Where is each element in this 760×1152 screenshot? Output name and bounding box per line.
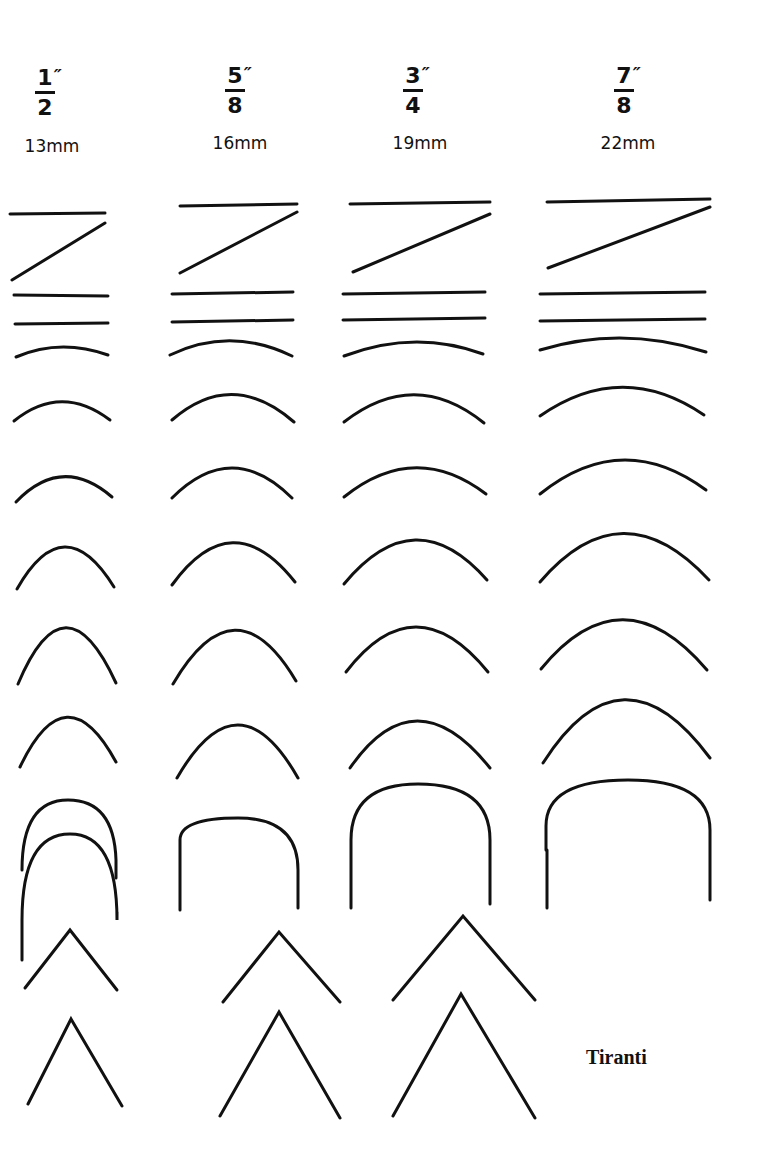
gouge-profile xyxy=(344,395,484,423)
inch-denominator: 8 xyxy=(594,94,654,118)
gouge-profile xyxy=(543,700,710,763)
inch-fraction: 1″ 2 xyxy=(15,66,75,120)
gouge-profile xyxy=(344,342,483,356)
inch-mark: ″ xyxy=(244,62,252,86)
gouge-profile xyxy=(16,477,112,502)
gouge-profile xyxy=(344,540,487,584)
gouge-profile xyxy=(177,725,298,778)
gouge-profile xyxy=(25,930,117,990)
gouge-profile xyxy=(353,214,490,272)
gouge-profile xyxy=(172,468,292,498)
inch-denominator: 4 xyxy=(383,94,443,118)
gouge-profile xyxy=(15,323,108,324)
fraction-bar xyxy=(614,89,634,92)
gouge-profile xyxy=(180,818,298,910)
gouge-profile xyxy=(172,543,295,585)
gouge-profile-diagram xyxy=(0,0,760,1152)
profiles-layer xyxy=(10,199,710,1118)
gouge-profile xyxy=(180,204,297,206)
gouge-profile xyxy=(12,223,105,280)
gouge-profile xyxy=(346,627,488,672)
gouge-profile xyxy=(180,212,297,273)
gouge-profile xyxy=(393,994,535,1118)
profile-column-col_13mm xyxy=(10,213,122,1106)
gouge-profile xyxy=(172,292,293,294)
fraction-bar xyxy=(403,89,423,92)
gouge-profile xyxy=(223,932,340,1002)
gouge-profile xyxy=(16,347,108,357)
mm-label: 13mm xyxy=(2,136,102,156)
gouge-profile xyxy=(343,318,485,320)
gouge-profile xyxy=(18,628,116,684)
inch-numerator: 1 xyxy=(37,65,52,90)
tiranti-label: Tiranti xyxy=(586,1046,647,1069)
gouge-profile xyxy=(540,292,705,294)
gouge-profile xyxy=(14,402,110,421)
inch-mark: ″ xyxy=(422,62,430,86)
inch-mark: ″ xyxy=(54,64,62,88)
inch-numerator: 7 xyxy=(616,63,631,88)
inch-fraction: 3″ 4 xyxy=(383,64,443,118)
gouge-profile xyxy=(540,387,704,416)
gouge-profile xyxy=(540,460,706,494)
gouge-profile xyxy=(22,800,116,878)
fraction-bar xyxy=(225,89,245,92)
gouge-profile xyxy=(22,834,117,960)
gouge-profile xyxy=(350,721,490,768)
inch-numerator: 5 xyxy=(227,63,242,88)
gouge-profile xyxy=(17,547,114,589)
fraction-bar xyxy=(35,91,55,94)
inch-fraction: 5″ 8 xyxy=(205,64,265,118)
mm-label: 22mm xyxy=(578,133,678,153)
gouge-profile xyxy=(172,320,293,322)
gouge-profile xyxy=(540,533,709,582)
gouge-profile xyxy=(350,202,490,204)
inch-denominator: 2 xyxy=(15,96,75,120)
gouge-profile xyxy=(20,717,116,767)
gouge-profile xyxy=(351,784,490,908)
mm-label: 19mm xyxy=(370,133,470,153)
inch-denominator: 8 xyxy=(205,94,265,118)
profile-column-col_22mm xyxy=(540,199,710,908)
gouge-profile xyxy=(547,199,710,202)
mm-label: 16mm xyxy=(190,133,290,153)
gouge-profile xyxy=(548,207,710,268)
inch-numerator: 3 xyxy=(405,63,420,88)
gouge-profile xyxy=(220,1012,340,1118)
gouge-profile xyxy=(10,213,105,214)
inch-fraction: 7″ 8 xyxy=(594,64,654,118)
gouge-profile xyxy=(172,394,294,422)
gouge-profile xyxy=(343,292,485,294)
gouge-profile xyxy=(541,620,707,670)
gouge-profile xyxy=(393,916,535,1000)
profile-column-col_19mm xyxy=(343,202,535,1118)
gouge-profile xyxy=(546,780,710,900)
profile-column-col_16mm xyxy=(170,204,340,1118)
gouge-profile xyxy=(173,630,296,684)
inch-mark: ″ xyxy=(633,62,641,86)
gouge-profile xyxy=(14,295,108,296)
gouge-profile xyxy=(28,1019,122,1106)
gouge-profile xyxy=(344,468,486,497)
gouge-profile xyxy=(170,341,292,356)
gouge-profile xyxy=(540,338,706,352)
gouge-profile xyxy=(540,319,705,321)
